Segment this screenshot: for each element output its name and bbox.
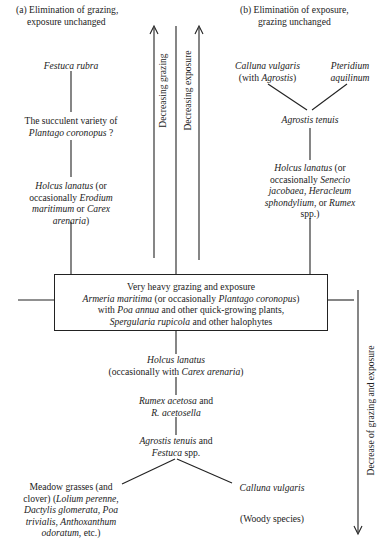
holcus-b-l2-italic: Senecio (320, 174, 350, 185)
decrease-grazing-exposure-label: Decrease of grazing and exposure (365, 331, 376, 491)
meadow-l3-b: Poa (103, 504, 118, 515)
agrostis-b-text: Agrostis tenuis (282, 114, 339, 125)
meadow-l5-italic: odoratum (42, 527, 79, 538)
holcus-b-node: Holcus lanatus (or occasionally Senecio … (250, 162, 370, 220)
holcus-b-l5: spp.) (250, 208, 370, 220)
calluna-b-l2-pre: (with (239, 72, 262, 83)
agrostis-lower-l2-post: spp. (182, 447, 200, 458)
pteridium-node: Pteridium aquilinum (320, 60, 380, 83)
heading-b-line1: (b) Eliminatiön of exposure, (240, 4, 349, 16)
woody-species-node: (Woody species) (232, 513, 312, 525)
meadow-l2-post: , (116, 493, 118, 504)
calluna-b-l2-post: ) (293, 72, 296, 83)
heading-b-line2: grazing unchanged (240, 16, 349, 28)
holcus-b-l2-pre: occasionally (270, 174, 320, 185)
heading-a-line1: (a) Elimination of grazing, (16, 4, 118, 16)
holcus-b-l3-a: jacobaea (269, 185, 304, 196)
rumex-l1-italic: Rumex acetosa (139, 395, 197, 406)
box-l2-b: Plantago coronopus (218, 293, 296, 304)
box-l3-pre: with (98, 304, 117, 315)
heading-b: (b) Eliminatiön of exposure, grazing unc… (240, 4, 349, 27)
calluna-b-l2-italic: Agrostis (261, 72, 293, 83)
box-l2-post: ) (296, 293, 299, 304)
holcus-a-l4-post: ) (86, 215, 89, 226)
box-l4-italic: Spergularia rupicola (110, 316, 190, 327)
holcus-a-node: Holcus lanatus (or occasionally Erodium … (11, 180, 131, 226)
very-heavy-grazing-box: Very heavy grazing and exposure Armeria … (54, 274, 328, 331)
holcus-b-italic: Holcus lanatus (274, 162, 332, 173)
holcus-a-l2-pre: occasionally (29, 192, 79, 203)
holcus-lower-node: Holcus lanatus (occasionally with Carex … (96, 354, 256, 377)
calluna-b-node: Calluna vulgaris (with Agrostis) (225, 60, 310, 83)
rumex-l2-italic: R. acetosella (151, 407, 201, 418)
holcus-lower-l2-pre: (occasionally with (109, 366, 182, 377)
box-line3: with Poa annua and other quick-growing p… (55, 304, 327, 316)
heading-a: (a) Elimination of grazing, exposure unc… (16, 4, 118, 27)
agrostis-lower-l2-italic: Festuca (152, 447, 182, 458)
meadow-l1: Meadow grasses (and (12, 481, 130, 493)
box-line1: Very heavy grazing and exposure (55, 281, 327, 293)
holcus-lower-l2-post: ) (240, 366, 243, 377)
rumex-node: Rumex acetosa and R. acetosella (116, 395, 236, 418)
pteridium-l1: Pteridium (331, 60, 369, 71)
holcus-a-post: (or (93, 180, 107, 191)
holcus-a-l2-italic: Erodium (80, 192, 113, 203)
box-l2-a: Armeria maritima (83, 293, 153, 304)
meadow-l3-a: Dactylis glomerata (24, 504, 98, 515)
meadow-l2-italic: Lolium perenne (56, 493, 116, 504)
decreasing-exposure-label: Decreasing exposure (182, 41, 193, 141)
box-line4: Spergularia rupicola and other halophyte… (55, 316, 327, 328)
holcus-a-line3: maritimum or Carex (11, 203, 131, 215)
box-l4-post: and other halophytes (190, 316, 272, 327)
holcus-b-post: (or (332, 162, 346, 173)
box-text: Very heavy grazing and exposure Armeria … (55, 281, 327, 327)
decreasing-grazing-label: Decreasing grazing (157, 41, 168, 141)
festuca-rubra-text: Festuca rubra (44, 60, 99, 71)
plantago-italic: Plantago coronopus (29, 127, 107, 138)
rumex-l1-post: and (197, 395, 213, 406)
meadow-grasses-node: Meadow grasses (and clover) (Lolium pere… (12, 481, 130, 539)
holcus-b-l4-italic: sphondylium (265, 197, 314, 208)
agrostis-b-node: Agrostis tenuis (260, 114, 360, 126)
box-l3-post: and other quick-growing plants, (159, 304, 284, 315)
meadow-l4-b: Anthoxanthum (60, 516, 116, 527)
pteridium-l2: aquilinum (331, 72, 370, 83)
calluna-b-italic: Calluna vulgaris (235, 60, 300, 71)
holcus-a-l4-italic: arenaria (53, 215, 86, 226)
holcus-a-line1: Holcus lanatus (or (11, 180, 131, 192)
holcus-lower-l2-italic: Carex arenaria (182, 366, 241, 377)
box-l3-italic: Poa annua (117, 304, 159, 315)
plantago-node: The succulent variety of Plantago corono… (11, 115, 131, 138)
meadow-l4-a: trivialis (26, 516, 56, 527)
meadow-l2-pre: clover) ( (23, 493, 56, 504)
holcus-lower-italic: Holcus lanatus (147, 354, 205, 365)
plantago-question: ? (107, 127, 114, 138)
agrostis-lower-l1-post: and (196, 435, 212, 446)
box-l2-mid: (or occasionally (152, 293, 218, 304)
holcus-b-l4-italic-b: Rumex (329, 197, 355, 208)
holcus-a-line4: arenaria) (11, 215, 131, 227)
meadow-l5-post: , etc.) (79, 527, 101, 538)
heading-a-line2: exposure unchanged (16, 16, 118, 28)
agrostis-lower-node: Agrostis tenuis and Festuca spp. (116, 435, 236, 458)
holcus-a-l3-mid: or (74, 203, 87, 214)
holcus-a-italic: Holcus lanatus (35, 180, 93, 191)
agrostis-lower-l1-italic: Agrostis tenuis (139, 435, 196, 446)
holcus-a-l3-b: Carex (87, 203, 110, 214)
holcus-b-l3-b: Heracleum (309, 185, 352, 196)
plantago-line2: Plantago coronopus ? (11, 127, 131, 139)
holcus-a-line2: occasionally Erodium (11, 192, 131, 204)
calluna-lower-italic: Calluna vulgaris (240, 482, 305, 493)
holcus-a-l3-a: maritimum (32, 203, 74, 214)
calluna-lower-node: Calluna vulgaris (232, 482, 312, 494)
plantago-line1: The succulent variety of (11, 115, 131, 127)
festuca-rubra-node: Festuca rubra (21, 60, 121, 72)
box-line2: Armeria maritima (or occasionally Planta… (55, 293, 327, 305)
holcus-b-l4-mid: , or (314, 197, 329, 208)
